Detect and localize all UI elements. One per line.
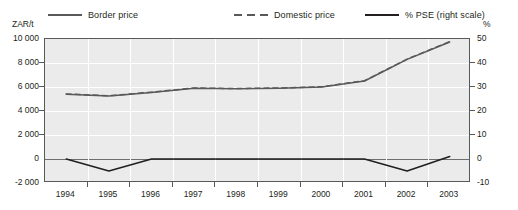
x-tick-mark xyxy=(257,182,258,187)
x-tick-mark xyxy=(87,182,88,187)
left-tick-label: 2 000 xyxy=(0,129,39,139)
legend-swatch-domestic-price xyxy=(234,10,268,20)
right-tick-label: 40 xyxy=(477,57,507,67)
x-tick-label: 1996 xyxy=(127,189,175,199)
right-tick-label: 10 xyxy=(477,129,507,139)
legend-label-pse: % PSE (right scale) xyxy=(405,10,485,20)
legend-label-domestic-price: Domestic price xyxy=(274,10,335,20)
right-tick-mark xyxy=(470,86,475,87)
x-tick-label: 2002 xyxy=(382,189,430,199)
x-tick-label: 1998 xyxy=(212,189,260,199)
legend-item-border-price: Border price xyxy=(48,7,138,23)
x-tick-label: 2001 xyxy=(340,189,388,199)
right-tick-mark xyxy=(470,110,475,111)
series-lines xyxy=(45,39,469,181)
right-axis-unit: % xyxy=(483,19,491,29)
chart-legend: Border price Domestic price % PSE (right… xyxy=(0,7,518,23)
x-tick-label: 2000 xyxy=(297,189,345,199)
right-tick-label: -10 xyxy=(477,177,507,187)
left-tick-label: 0 xyxy=(0,153,39,163)
right-tick-label: 50 xyxy=(477,33,507,43)
legend-item-pse: % PSE (right scale) xyxy=(365,7,485,23)
series-line xyxy=(66,157,449,171)
x-tick-mark xyxy=(129,182,130,187)
x-tick-mark xyxy=(172,182,173,187)
x-tick-mark xyxy=(427,182,428,187)
chart-root: Border price Domestic price % PSE (right… xyxy=(0,0,518,210)
legend-swatch-pse xyxy=(365,10,399,20)
right-tick-label: 20 xyxy=(477,105,507,115)
x-tick-label: 1995 xyxy=(84,189,132,199)
plot-area xyxy=(44,38,470,182)
x-tick-mark xyxy=(385,182,386,187)
x-tick-label: 1994 xyxy=(41,189,89,199)
series-line xyxy=(66,42,449,96)
legend-swatch-border-price xyxy=(48,10,82,20)
x-tick-label: 1997 xyxy=(169,189,217,199)
x-tick-label: 2003 xyxy=(425,189,473,199)
right-tick-mark xyxy=(470,134,475,135)
right-tick-mark xyxy=(470,62,475,63)
left-tick-label: 4 000 xyxy=(0,105,39,115)
left-tick-label: -2 000 xyxy=(0,177,39,187)
left-tick-label: 10 000 xyxy=(0,33,39,43)
x-tick-mark xyxy=(300,182,301,187)
left-tick-label: 6 000 xyxy=(0,81,39,91)
x-tick-mark xyxy=(342,182,343,187)
x-tick-label: 1999 xyxy=(254,189,302,199)
right-tick-label: 30 xyxy=(477,81,507,91)
legend-label-border-price: Border price xyxy=(88,10,138,20)
right-tick-label: 0 xyxy=(477,153,507,163)
left-axis-unit: ZAR/t xyxy=(12,19,34,29)
plot-inner xyxy=(45,39,469,181)
legend-item-domestic-price: Domestic price xyxy=(234,7,335,23)
x-tick-mark xyxy=(214,182,215,187)
left-tick-label: 8 000 xyxy=(0,57,39,67)
